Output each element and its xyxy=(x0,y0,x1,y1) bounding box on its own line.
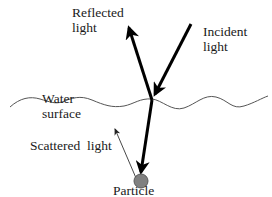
incident-label-line2: light xyxy=(203,39,247,54)
water-label-line1: Water xyxy=(42,91,81,106)
reflected-label-line2: light xyxy=(72,20,124,35)
reflected-light-label: Reflected light xyxy=(72,5,124,35)
water-surface-label: Water surface xyxy=(42,91,81,121)
refracted-light-arrow xyxy=(141,100,152,172)
particle-label: Particle xyxy=(113,183,154,197)
scattered-light-arrow xyxy=(115,129,136,178)
reflected-light-arrow xyxy=(129,28,152,100)
incident-light-arrow xyxy=(155,24,191,94)
incident-label-line1: Incident xyxy=(203,24,247,39)
water-label-line2: surface xyxy=(42,106,81,121)
reflected-label-line1: Reflected xyxy=(72,5,124,20)
scattered-light-label: Scattered light xyxy=(30,138,112,153)
incident-light-label: Incident light xyxy=(203,24,247,54)
